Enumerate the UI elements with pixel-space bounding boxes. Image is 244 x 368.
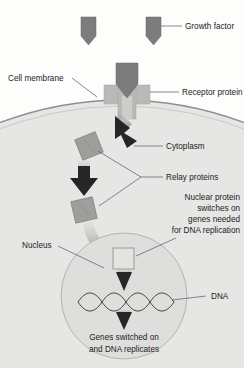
outcome-caption-line-1: Genes switched on	[89, 333, 159, 342]
nuclear-protein-note-line-3: genes needed	[188, 215, 240, 224]
outcome-caption-line-2: and DNA replicates	[89, 345, 159, 354]
relay-protein-square	[71, 197, 97, 223]
signal-transduction-diagram: Growth factor Cell membrane Receptor pro…	[0, 0, 244, 368]
nuclear-protein-note-line-4: for DNA replication	[172, 226, 241, 235]
diagram-canvas: Growth factor Cell membrane Receptor pro…	[0, 0, 244, 368]
cell-membrane-leader-line	[72, 78, 97, 97]
growth-factor-right	[146, 17, 161, 45]
cytoplasm-label: Cytoplasm	[166, 142, 205, 151]
relay-proteins-label: Relay proteins	[166, 173, 218, 182]
nuclear-protein-square	[113, 248, 134, 269]
dna-label: DNA	[211, 292, 229, 301]
receptor-protein-label: Receptor protein	[182, 88, 243, 97]
growth-factor-icon	[146, 17, 161, 45]
nuclear-protein-note-line-1: Nuclear protein	[184, 193, 240, 202]
nuclear-protein-note-line-2: switches on	[197, 204, 240, 213]
growth-factor-left	[81, 17, 96, 45]
receptor-channel	[122, 96, 132, 119]
growth-factor-icon	[81, 17, 96, 45]
nucleus-label: Nucleus	[22, 241, 52, 250]
nuclear-protein	[113, 248, 134, 269]
relay-protein-2	[71, 197, 97, 223]
cell-membrane-label: Cell membrane	[8, 74, 64, 83]
growth-factor-label: Growth factor	[185, 22, 234, 31]
